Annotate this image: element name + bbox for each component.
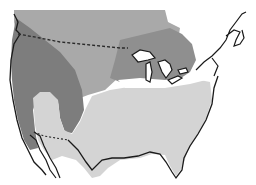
map-graphic [0,0,256,185]
east-coast-outline [196,12,246,76]
range-map [0,0,256,185]
